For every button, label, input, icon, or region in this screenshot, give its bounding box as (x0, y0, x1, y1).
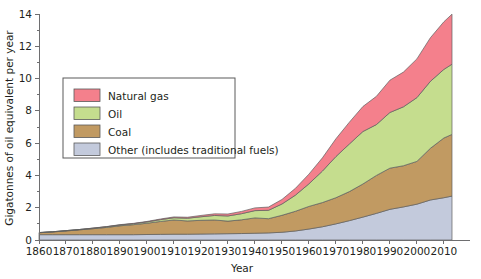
y-tick-label: 6 (25, 137, 32, 149)
x-tick-label: 1910 (161, 245, 188, 257)
x-tick-label: 1900 (134, 245, 161, 257)
x-tick-label: 1870 (53, 245, 80, 257)
x-tick-label: 1890 (107, 245, 134, 257)
x-axis-title: Year (230, 262, 254, 274)
x-tick-label: 1950 (269, 245, 296, 257)
x-tick-label: 1970 (323, 245, 350, 257)
legend-swatch-other (74, 143, 100, 156)
x-tick-label: 1930 (215, 245, 242, 257)
y-tick-label: 10 (19, 72, 32, 84)
legend-label-natural: Natural gas (108, 90, 169, 102)
y-tick-label: 4 (25, 169, 32, 181)
x-tick-label: 1960 (296, 245, 323, 257)
x-tick-label: 1880 (80, 245, 107, 257)
legend-swatch-coal (74, 125, 100, 138)
y-tick-label: 14 (19, 8, 33, 20)
x-tick-label: 2000 (404, 245, 431, 257)
y-tick-label: 0 (25, 234, 32, 246)
x-tick-label: 1860 (26, 245, 53, 257)
y-tick-label: 12 (19, 40, 32, 52)
y-tick-label: 8 (25, 104, 32, 116)
x-tick-labels: 1860187018801890190019101920193019401950… (26, 245, 458, 257)
legend-label-oil: Oil (108, 108, 122, 120)
y-tick-labels: 02468101214 (19, 8, 33, 246)
x-tick-label: 1920 (188, 245, 215, 257)
energy-stacked-area-chart: 1860187018801890190019101920193019401950… (0, 0, 481, 279)
y-axis-title: Gigatonnes of oil equivalent per year (3, 30, 15, 226)
x-tick-label: 1980 (350, 245, 377, 257)
legend-swatch-natural (74, 89, 100, 102)
legend-label-coal: Coal (108, 126, 131, 138)
x-tick-label: 2010 (431, 245, 458, 257)
legend-label-other: Other (includes traditional fuels) (108, 144, 279, 156)
chart-legend: Natural gasOilCoalOther (includes tradit… (63, 78, 279, 158)
y-tick-label: 2 (25, 201, 32, 213)
x-tick-label: 1940 (242, 245, 269, 257)
legend-swatch-oil (74, 107, 100, 120)
chart-figure: 1860187018801890190019101920193019401950… (0, 0, 481, 279)
x-tick-label: 1990 (377, 245, 404, 257)
